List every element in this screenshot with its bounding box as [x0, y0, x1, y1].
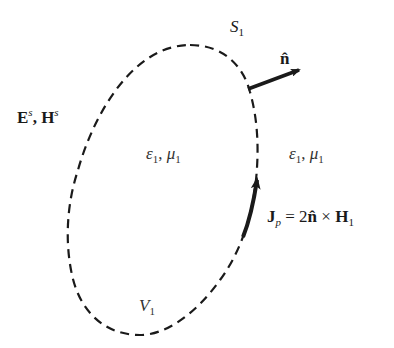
- e-field: E: [17, 108, 28, 127]
- current-arrow: [243, 180, 257, 237]
- current-j: J: [267, 207, 276, 226]
- surface-label-base: S: [230, 17, 239, 36]
- surface-label-sub: 1: [239, 26, 245, 38]
- normal-arrow: [248, 70, 299, 89]
- equals-two: = 2: [281, 207, 308, 226]
- exterior-medium-label: ε1, μ1: [289, 145, 324, 165]
- mu: μ: [167, 144, 176, 163]
- surface-boundary: [68, 45, 258, 335]
- h-field-sup: s: [54, 106, 58, 118]
- h-symbol: H: [335, 207, 348, 226]
- normal-label: n̂: [280, 50, 289, 67]
- diagram-canvas: S1 n̂ Es, Hs ε1, μ1 ε1, μ1 Jp = 2n̂ × H1…: [0, 0, 394, 348]
- separator: ,: [158, 144, 167, 163]
- exterior-fields-label: Es, Hs: [17, 107, 59, 126]
- volume-label-sub: 1: [149, 305, 155, 317]
- interior-medium-label: ε1, μ1: [146, 145, 181, 165]
- h-field: H: [41, 108, 54, 127]
- surface-label: S1: [230, 18, 244, 38]
- h-sub: 1: [348, 216, 354, 228]
- separator: ,: [33, 108, 42, 127]
- cross-symbol: ×: [317, 207, 335, 226]
- volume-label-base: V: [139, 296, 149, 315]
- mu-sub: 1: [318, 153, 324, 165]
- mu: μ: [310, 144, 319, 163]
- diagram-graphics: [0, 0, 394, 348]
- epsilon: ε: [289, 144, 296, 163]
- separator: ,: [301, 144, 310, 163]
- volume-label: V1: [139, 297, 155, 317]
- normal-symbol: n̂: [308, 207, 317, 226]
- mu-sub: 1: [175, 153, 181, 165]
- epsilon: ε: [146, 144, 153, 163]
- current-label: Jp = 2n̂ × H1: [267, 208, 354, 228]
